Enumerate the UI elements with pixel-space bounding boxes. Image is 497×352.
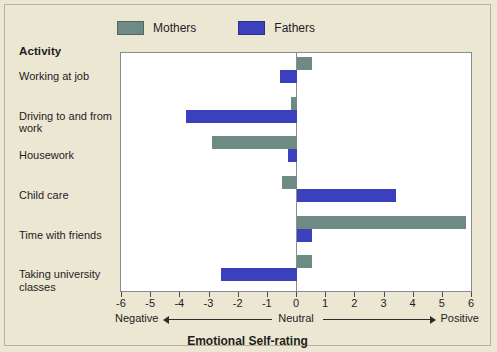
bar-mothers — [212, 136, 297, 149]
x-tick-label: 2 — [342, 297, 366, 309]
category-label: Working at job — [19, 70, 119, 83]
legend-swatch-mothers — [117, 21, 144, 35]
bar-mothers — [297, 57, 312, 70]
legend-item-mothers: Mothers — [117, 21, 196, 35]
x-tick-label: 3 — [372, 297, 396, 309]
bar-fathers — [288, 149, 297, 162]
x-tick-label: 6 — [459, 297, 483, 309]
category-label: Taking university classes — [19, 268, 119, 293]
x-tick-label: 4 — [401, 297, 425, 309]
arrow-line-left — [168, 319, 272, 320]
polarity-label-positive: Positive — [440, 312, 479, 324]
category-label: Housework — [19, 149, 119, 162]
legend-swatch-fathers — [238, 21, 265, 35]
bar-mothers — [297, 216, 466, 229]
legend-item-fathers: Fathers — [238, 21, 315, 35]
category-label: Child care — [19, 189, 119, 202]
bar-fathers — [297, 229, 312, 242]
x-tick-label: -4 — [167, 297, 191, 309]
x-tick-label: 5 — [430, 297, 454, 309]
arrow-head-left-icon — [163, 316, 169, 324]
category-label: Time with friends — [19, 229, 119, 242]
polarity-label-neutral: Neutral — [278, 312, 313, 324]
category-label: Driving to and from work — [19, 110, 119, 135]
bar-fathers — [280, 70, 298, 83]
x-tick-label: 0 — [284, 297, 308, 309]
chart-legend: Mothers Fathers — [117, 20, 315, 36]
x-tick-label: -3 — [197, 297, 221, 309]
polarity-scale-row: Negative Neutral Positive — [105, 312, 487, 328]
polarity-label-negative: Negative — [115, 312, 158, 324]
x-tick-label: -1 — [255, 297, 279, 309]
category-label-list: Working at jobDriving to and from workHo… — [19, 65, 115, 293]
x-tick-label: 1 — [313, 297, 337, 309]
arrow-head-right-icon — [430, 316, 436, 324]
legend-label-fathers: Fathers — [274, 22, 315, 34]
x-tick-label: -2 — [226, 297, 250, 309]
bar-fathers — [186, 110, 297, 123]
legend-label-mothers: Mothers — [153, 22, 196, 34]
bar-mothers — [297, 255, 312, 268]
plot-area — [120, 52, 472, 292]
bar-fathers — [221, 268, 297, 281]
arrow-line-right — [323, 319, 432, 320]
x-axis-tick-labels: -6-5-4-3-2-10123456 — [120, 297, 472, 311]
bar-mothers — [291, 97, 297, 110]
x-axis-title: Emotional Self-rating — [5, 334, 490, 348]
bar-mothers — [282, 176, 297, 189]
activity-column-header: Activity — [19, 45, 61, 57]
x-tick-label: -6 — [109, 297, 133, 309]
chart-frame: Mothers Fathers Activity Working at jobD… — [4, 4, 491, 346]
x-tick-label: -5 — [138, 297, 162, 309]
bar-fathers — [297, 189, 396, 202]
